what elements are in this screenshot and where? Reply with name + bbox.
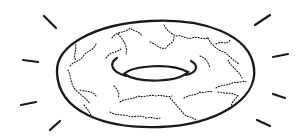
shine-line — [44, 16, 56, 28]
donut-hole-inner-ellipse — [124, 66, 188, 81]
shine-line — [273, 94, 285, 98]
shine-line — [23, 60, 38, 62]
shine-line — [255, 15, 270, 25]
shine-line — [273, 54, 288, 57]
shine-line — [21, 102, 36, 105]
shine-line — [257, 120, 270, 126]
donut-illustration — [0, 0, 307, 140]
donut-drawing — [0, 0, 307, 140]
shine-line — [50, 121, 60, 130]
